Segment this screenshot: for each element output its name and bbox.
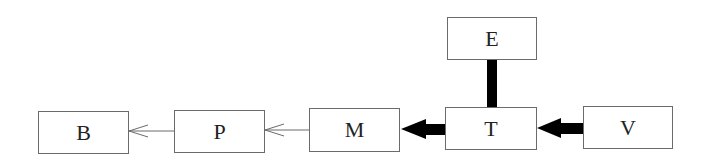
edge-e-to-t [487,59,497,108]
node-p: P [174,110,265,153]
node-t: T [445,107,537,150]
edge-p-to-b [129,125,174,137]
edge-v-to-t [537,118,584,138]
edge-t-to-m [401,119,446,139]
node-v: V [583,106,673,149]
node-e: E [447,17,537,60]
edge-m-to-p [265,124,309,136]
node-m: M [309,108,400,152]
node-b: B [38,111,129,154]
